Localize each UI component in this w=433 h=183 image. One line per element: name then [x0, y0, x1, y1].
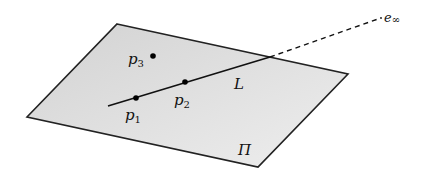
label-line-l: L: [233, 75, 244, 93]
plane-line-diagram: p3 p1 p2 L Π e∞: [0, 0, 433, 183]
label-e-infinity: e∞: [384, 10, 400, 25]
point-p3: [150, 53, 156, 59]
plane-pi: [27, 24, 348, 167]
point-p2: [182, 79, 188, 85]
point-p1: [133, 95, 139, 101]
label-plane-pi: Π: [237, 141, 252, 159]
infinity-point-dot: [380, 17, 382, 19]
line-l-dashed-extension: [270, 19, 378, 57]
